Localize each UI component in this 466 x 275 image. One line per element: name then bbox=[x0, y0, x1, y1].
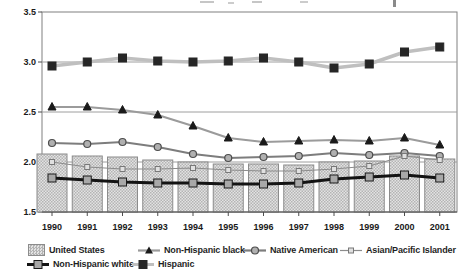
legend-label-non-hispanic-black: Non-Hispanic black bbox=[164, 245, 245, 255]
legend-label-asian-pacific-islander: Asian/Pacific Islander bbox=[366, 245, 456, 255]
legend-label-non-hispanic-white: Non-Hispanic white bbox=[53, 259, 134, 269]
legend-swatch bbox=[132, 259, 154, 270]
marker-square bbox=[119, 178, 127, 186]
legend-swatch bbox=[27, 259, 49, 270]
us-bar-2000 bbox=[390, 156, 420, 212]
legend-marker-shape bbox=[252, 247, 259, 254]
open-square-marker-icon bbox=[340, 245, 362, 256]
marker-open-square bbox=[437, 158, 442, 163]
marker-square bbox=[365, 173, 373, 181]
legend-label-hispanic: Hispanic bbox=[158, 259, 194, 269]
legend-marker-shape bbox=[139, 260, 147, 268]
legend-swatch bbox=[138, 245, 160, 256]
marker-circle bbox=[119, 139, 126, 146]
marker-square bbox=[365, 60, 373, 68]
x-tick-label-1995: 1995 bbox=[218, 222, 238, 232]
marker-open-square bbox=[226, 168, 231, 173]
marker-square bbox=[260, 54, 268, 62]
marker-open-square bbox=[332, 167, 337, 172]
marker-circle bbox=[84, 141, 91, 148]
marker-circle bbox=[154, 144, 161, 151]
marker-square bbox=[330, 64, 338, 72]
x-tick-label-1997: 1997 bbox=[289, 222, 309, 232]
y-tick-label: 3.0 bbox=[23, 57, 36, 67]
legend-item-non-hispanic-white: Non-Hispanic white bbox=[27, 258, 134, 270]
marker-circle bbox=[295, 153, 302, 160]
marker-open-square bbox=[261, 169, 266, 174]
marker-circle bbox=[49, 140, 56, 147]
x-tick-label-1999: 1999 bbox=[359, 222, 379, 232]
x-tick-label-1998: 1998 bbox=[324, 222, 344, 232]
marker-square bbox=[83, 176, 91, 184]
marker-circle bbox=[190, 151, 197, 158]
us-bar-2001 bbox=[425, 159, 455, 212]
marker-circle bbox=[260, 154, 267, 161]
legend-swatch bbox=[340, 245, 362, 256]
marker-square bbox=[48, 62, 56, 70]
marker-square bbox=[295, 179, 303, 187]
legend-marker-shape bbox=[349, 248, 354, 253]
x-tick-label-1992: 1992 bbox=[112, 222, 132, 232]
legend-item-hispanic: Hispanic bbox=[132, 258, 194, 270]
x-tick-label-1994: 1994 bbox=[183, 222, 203, 232]
marker-square bbox=[436, 174, 444, 182]
marker-square bbox=[83, 58, 91, 66]
x-tick-label-2000: 2000 bbox=[394, 222, 414, 232]
legend-item-asian-pacific-islander: Asian/Pacific Islander bbox=[340, 244, 456, 256]
chart-screenshot: 1.52.02.53.03.51990199119921993199419951… bbox=[0, 0, 466, 275]
marker-square bbox=[401, 48, 409, 56]
marker-square bbox=[48, 174, 56, 182]
x-tick-label-2001: 2001 bbox=[430, 222, 450, 232]
marker-open-square bbox=[120, 167, 125, 172]
marker-open-square bbox=[50, 160, 55, 165]
legend-swatch bbox=[244, 245, 266, 256]
fertility-rate-chart: 1.52.02.53.03.51990199119921993199419951… bbox=[0, 0, 466, 240]
x-tick-label-1990: 1990 bbox=[42, 222, 62, 232]
marker-square bbox=[154, 57, 162, 65]
marker-square bbox=[119, 54, 127, 62]
marker-open-square bbox=[367, 164, 372, 169]
marker-square bbox=[401, 171, 409, 179]
x-tick-label-1993: 1993 bbox=[148, 222, 168, 232]
marker-square bbox=[436, 43, 444, 51]
legend-label-native-american: Native American bbox=[270, 245, 338, 255]
marker-square bbox=[260, 180, 268, 188]
triangle-marker-icon bbox=[138, 245, 160, 256]
y-tick-label: 2.5 bbox=[23, 107, 36, 117]
marker-open-square bbox=[296, 169, 301, 174]
y-tick-label: 1.5 bbox=[23, 207, 36, 217]
marker-square bbox=[224, 57, 232, 65]
marker-open-square bbox=[191, 166, 196, 171]
marker-open-square bbox=[85, 165, 90, 170]
marker-circle bbox=[331, 150, 338, 157]
cropped-title-remnant bbox=[0, 0, 466, 10]
united-states-bar-swatch-icon bbox=[28, 244, 45, 256]
legend-item-native-american: Native American bbox=[244, 244, 338, 256]
marker-square bbox=[154, 179, 162, 187]
black-square-marker-icon bbox=[132, 259, 154, 270]
marker-open-square bbox=[155, 167, 160, 172]
legend-item-non-hispanic-black: Non-Hispanic black bbox=[138, 244, 245, 256]
marker-circle bbox=[225, 155, 232, 162]
y-tick-label: 2.0 bbox=[23, 157, 36, 167]
chart-legend: United States Non-Hispanic black Native … bbox=[0, 242, 466, 275]
marker-circle bbox=[366, 152, 373, 159]
marker-square bbox=[189, 179, 197, 187]
marker-square bbox=[189, 58, 197, 66]
x-tick-label-1991: 1991 bbox=[77, 222, 97, 232]
marker-square bbox=[224, 180, 232, 188]
marker-open-square bbox=[402, 154, 407, 159]
marker-square bbox=[330, 175, 338, 183]
circle-marker-icon bbox=[244, 245, 266, 256]
x-tick-label-1996: 1996 bbox=[253, 222, 273, 232]
gray-square-marker-icon bbox=[27, 259, 49, 270]
marker-square bbox=[295, 58, 303, 66]
legend-marker-shape bbox=[34, 260, 42, 268]
legend-label-united-states: United States bbox=[49, 245, 105, 255]
legend-item-united-states: United States bbox=[28, 244, 105, 256]
